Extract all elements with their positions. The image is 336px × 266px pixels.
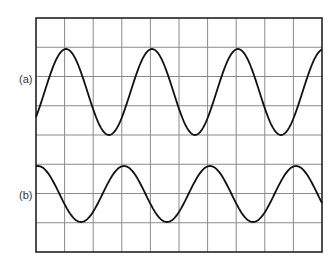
- oscilloscope-grid-figure: [0, 0, 336, 266]
- label-b: (b): [19, 189, 32, 201]
- label-a: (a): [19, 73, 32, 85]
